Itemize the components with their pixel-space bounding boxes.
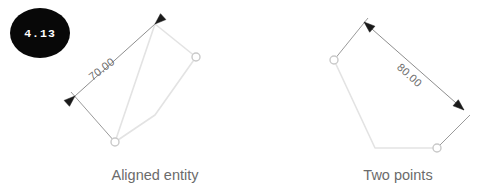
badge-label: 4.13	[24, 27, 56, 40]
dimension-line-two-points	[364, 22, 464, 110]
extension-line-end-two-points	[437, 115, 470, 148]
entity-node-upper-left-two-points	[330, 56, 338, 64]
extension-line-start-two-points	[334, 18, 368, 60]
section-badge: 4.13	[10, 8, 70, 58]
entity-node-lower-left-aligned	[111, 138, 119, 146]
caption-two-points: Two points	[363, 167, 432, 183]
illustration-canvas: 70.00 Aligned entity 80.00 Two points 4.…	[0, 0, 484, 196]
dimension-value-aligned: 70.00	[86, 55, 116, 82]
entity-outline-aligned	[115, 24, 196, 142]
figure-two-points: 80.00 Two points	[330, 18, 470, 183]
dimension-value-two-points: 80.00	[395, 61, 425, 89]
cad-dimension-illustration: 70.00 Aligned entity 80.00 Two points 4.…	[0, 0, 484, 196]
entity-node-upper-right-aligned	[192, 53, 200, 61]
figure-aligned-entity: 70.00 Aligned entity	[64, 14, 200, 183]
extension-line-start-aligned	[71, 92, 115, 142]
caption-aligned-entity: Aligned entity	[111, 167, 199, 183]
entity-node-lower-right-two-points	[433, 144, 441, 152]
